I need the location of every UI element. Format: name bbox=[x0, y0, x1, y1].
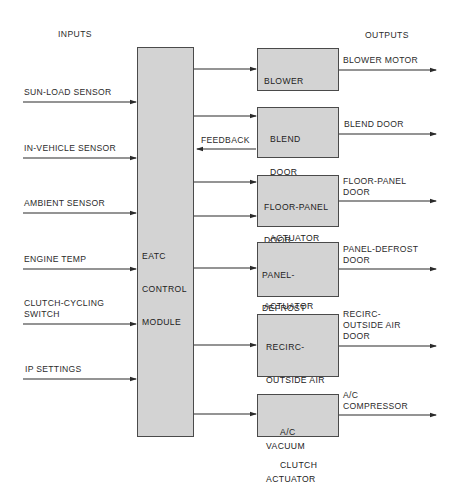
outputs-heading: OUTPUTS bbox=[365, 30, 409, 40]
output-label-line: OUTSIDE AIR bbox=[343, 320, 401, 331]
box-label-line: A/C bbox=[280, 427, 317, 438]
input-sun-load-sensor: SUN-LOAD SENSOR bbox=[24, 87, 112, 98]
output-blower-motor: BLOWER MOTOR bbox=[343, 55, 418, 66]
blend-door-electric-actuator-box: BLEND DOOR ELECTRIC ACTUATOR bbox=[257, 107, 339, 158]
input-clutch-cycling-switch: CLUTCH-CYCLING SWITCH bbox=[24, 298, 104, 320]
box-label-line: PANEL- bbox=[262, 270, 331, 281]
floor-panel-door-vacuum-actuator-box: FLOOR-PANEL DOOR VACUUM ACTUATOR bbox=[257, 175, 339, 227]
box-label-line: OUTSIDE AIR bbox=[266, 375, 325, 386]
output-label-line: COMPRESSOR bbox=[343, 401, 408, 412]
blower-speed-controller-box: BLOWER SPEED CONTROLLER bbox=[257, 48, 339, 91]
input-in-vehicle-sensor: IN-VEHICLE SENSOR bbox=[24, 143, 116, 154]
output-label: BLEND DOOR bbox=[344, 119, 404, 129]
box-label-line: BLEND bbox=[270, 134, 320, 145]
box-label-line: FLOOR-PANEL bbox=[264, 202, 328, 213]
eatc-control-module: EATC CONTROL MODULE bbox=[137, 47, 194, 437]
output-label-line: DOOR bbox=[343, 255, 418, 266]
output-panel-defrost-door: PANEL-DEFROST DOOR bbox=[343, 244, 418, 266]
output-label-line: A/C bbox=[343, 390, 408, 401]
module-label-line: CONTROL bbox=[142, 284, 187, 295]
input-label: IN-VEHICLE SENSOR bbox=[24, 143, 116, 153]
input-label-line: SWITCH bbox=[24, 309, 104, 320]
output-label-line: DOOR bbox=[343, 187, 406, 198]
input-label: AMBIENT SENSOR bbox=[24, 198, 105, 208]
output-ac-compressor: A/C COMPRESSOR bbox=[343, 390, 408, 412]
output-label-line: DOOR bbox=[343, 331, 401, 342]
input-engine-temp: ENGINE TEMP bbox=[24, 254, 86, 265]
input-ambient-sensor: AMBIENT SENSOR bbox=[24, 198, 105, 209]
output-blend-door: BLEND DOOR bbox=[344, 119, 404, 130]
input-label-line: CLUTCH-CYCLING bbox=[24, 298, 104, 309]
output-label: BLOWER MOTOR bbox=[343, 55, 418, 65]
output-label-line: FLOOR-PANEL bbox=[343, 176, 406, 187]
module-label-line: MODULE bbox=[142, 317, 187, 328]
input-label: ENGINE TEMP bbox=[24, 254, 86, 264]
output-label-line: PANEL-DEFROST bbox=[343, 244, 418, 255]
recirc-outside-air-door-vacuum-actuator-box: RECIRC- OUTSIDE AIR DOOR VACUUM ACTUATOR bbox=[257, 314, 339, 377]
output-label-line: RECIRC- bbox=[343, 309, 401, 320]
panel-defrost-door-vacuum-actuator-box: PANEL- DEFROST DOOR VACUUM ACTUATOR bbox=[257, 242, 339, 297]
input-ip-settings: IP SETTINGS bbox=[25, 364, 82, 375]
box-label-line: RECIRC- bbox=[266, 342, 325, 353]
output-recirc-outside-air-door: RECIRC- OUTSIDE AIR DOOR bbox=[343, 309, 401, 342]
box-label-line: DEFROST bbox=[262, 303, 331, 314]
output-floor-panel-door: FLOOR-PANEL DOOR bbox=[343, 176, 406, 198]
input-label: SUN-LOAD SENSOR bbox=[24, 87, 112, 97]
input-label: IP SETTINGS bbox=[25, 364, 82, 374]
box-label-line: BLOWER bbox=[264, 76, 327, 87]
inputs-heading: INPUTS bbox=[58, 29, 92, 39]
feedback-label: FEEDBACK bbox=[201, 135, 250, 146]
module-label-line: EATC bbox=[142, 251, 187, 262]
ac-clutch-box: A/C CLUTCH bbox=[257, 394, 339, 437]
box-label-line: CLUTCH bbox=[280, 460, 317, 471]
